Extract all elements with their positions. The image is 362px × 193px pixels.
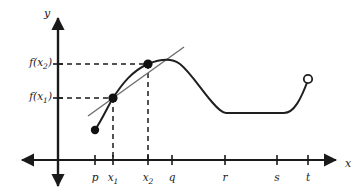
x-tick-label-s: s — [274, 172, 279, 183]
y-value-label-fx1-text: f(x1) — [29, 90, 52, 102]
point-x2 — [143, 59, 152, 68]
y-value-label-fx2: f(x2) — [29, 57, 52, 71]
y-value-label-fx2-text: f(x2) — [29, 56, 52, 68]
x-tick-label-r: r — [222, 172, 227, 183]
x-axis-label: x — [345, 158, 351, 169]
graph-canvas — [0, 0, 362, 193]
x-tick-label-x1: x1 — [108, 172, 119, 186]
function-curve — [95, 60, 308, 130]
curve-start-point — [91, 126, 99, 134]
x-tick-label-t: t — [306, 172, 310, 183]
function-graph-figure: y x f(x2) f(x1) p x1 x2 q r s t — [0, 0, 362, 193]
point-x1 — [108, 93, 117, 102]
x-tick-label-q: q — [169, 172, 176, 183]
x-tick-label-p: p — [92, 172, 99, 183]
y-axis-label: y — [44, 8, 50, 19]
curve-end-point-open-circle — [304, 75, 312, 83]
y-value-label-fx1: f(x1) — [29, 91, 52, 105]
secant-line — [88, 47, 184, 116]
x-tick-label-x2: x2 — [143, 172, 154, 186]
